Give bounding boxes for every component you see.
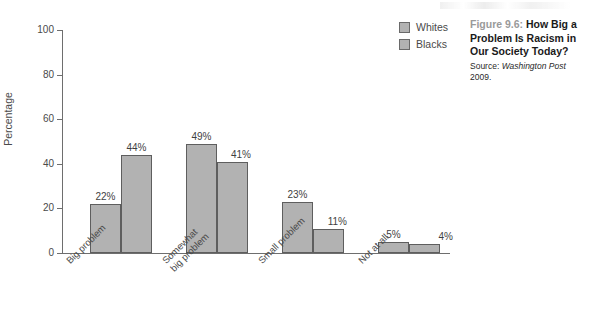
bar-blacks-somewhat-big-problem[interactable]: 41% [217,162,248,253]
scan-artifact [440,2,570,9]
chart-legend: Whites Blacks [399,19,469,53]
caption-source-year: 2009. [470,72,491,82]
bar-value-blacks-somewhat-big-problem: 41% [231,150,251,160]
legend-swatch-icon-blacks [399,39,410,50]
legend-label-blacks: Blacks [416,39,447,50]
bar-value-blacks-small-problem: 11% [328,217,347,227]
bar-blacks-big-problem[interactable]: 44% [121,155,152,253]
caption-source-prefix: Source: [470,61,499,71]
bar-blacks-small-problem[interactable]: 11% [313,229,344,254]
y-axis-line [62,30,63,253]
bar-value-blacks-big-problem: 44% [126,143,146,153]
legend-label-whites: Whites [416,22,448,33]
legend-swatch-icon-whites [399,22,410,33]
y-tick-label-80: 80 [43,70,54,80]
y-tick-label-0: 0 [48,248,54,258]
y-tick-label-60: 60 [43,114,54,124]
bar-value-whites-small-problem: 23% [287,190,307,200]
caption-source-publication: Washington Post [502,61,566,71]
x-axis-line [62,253,450,254]
legend-item-blacks[interactable]: Blacks [399,36,469,53]
caption-source: Source: Washington Post 2009. [470,61,588,83]
bar-blacks-not-at-all[interactable]: 4% [409,244,440,253]
bar-value-whites-somewhat-big-problem: 49% [191,132,211,142]
y-tick-label-100: 100 [37,25,54,35]
y-tick-label-20: 20 [43,203,54,213]
y-tick-label-40: 40 [43,159,54,169]
bar-value-whites-big-problem: 22% [95,192,115,202]
legend-item-whites[interactable]: Whites [399,19,469,36]
figure-container: Percentage 100 80 60 40 20 0 [0,0,590,324]
caption-figure-number: Figure 9.6: [470,18,523,30]
y-axis-label: Percentage [2,92,14,146]
figure-caption: Figure 9.6: How Big a Problem Is Racism … [470,18,588,91]
plot-area: 100 80 60 40 20 0 22% 44% [62,30,450,253]
bar-value-blacks-not-at-all: 4% [439,232,453,242]
caption-title-line: Figure 9.6: How Big a Problem Is Racism … [470,18,588,59]
